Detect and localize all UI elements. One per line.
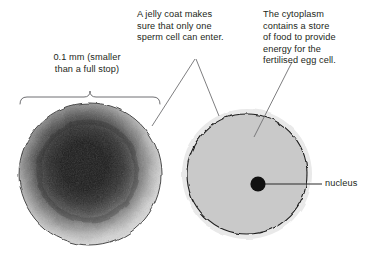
jelly-coat-leader-left [152,59,195,126]
egg-cell-figure: 0.1 mm (smaller than a full stop) A jell… [0,0,384,258]
size-brace [20,91,160,104]
jelly-coat-label: A jelly coat makes sure that only one sp… [137,9,249,44]
nucleus-label: nucleus [325,178,381,190]
cytoplasm-label: The cytoplasm contains a store of food t… [263,9,375,67]
size-label: 0.1 mm (smaller than a full stop) [22,52,152,75]
cytoplasm-leader [254,62,292,137]
jelly-coat-leader-right [196,59,219,116]
